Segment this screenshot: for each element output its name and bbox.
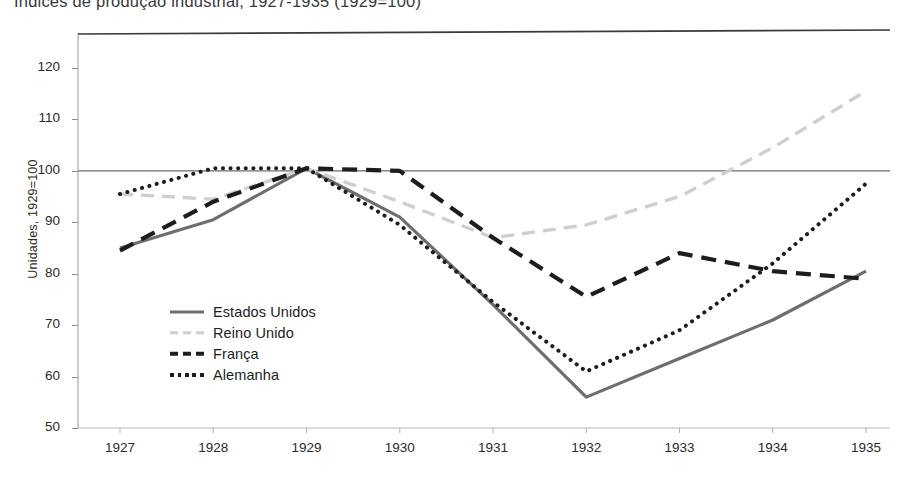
legend-item[interactable]: Estados Unidos: [170, 301, 316, 322]
plot-area: [0, 0, 919, 483]
legend-label: Alemanha: [213, 367, 279, 383]
legend-label: Reino Unido: [213, 325, 294, 341]
legend-swatch-icon: [170, 306, 204, 317]
legend-swatch-icon: [170, 348, 204, 359]
legend-swatch-icon: [170, 369, 204, 380]
legend-item[interactable]: França: [170, 343, 316, 364]
legend-label: Estados Unidos: [213, 304, 316, 320]
legend-item[interactable]: Reino Unido: [170, 322, 316, 343]
legend-item[interactable]: Alemanha: [170, 364, 316, 385]
legend-label: França: [213, 346, 259, 362]
chart-legend: Estados UnidosReino UnidoFrançaAlemanha: [170, 301, 316, 385]
chart-container: Índices de produção industrial, 1927-193…: [0, 0, 919, 483]
legend-swatch-icon: [170, 327, 204, 338]
series-line-reino-unido: [120, 91, 866, 238]
plot-top-border: [78, 30, 890, 34]
